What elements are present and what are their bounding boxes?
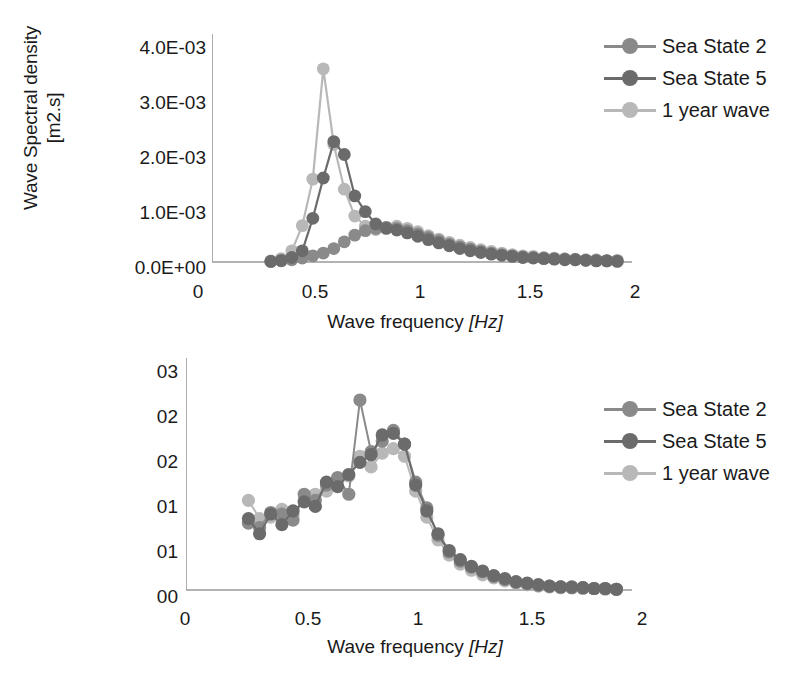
top-chart-x-tick-1: 0.5 [285,282,345,301]
bottom-chart-x-tick-4: 2 [622,609,662,628]
bottom-chart-x-axis-title: Wave frequency [Hz] [205,637,625,657]
data-point [443,544,456,557]
legend-dot-icon [622,401,638,417]
data-point [353,393,366,406]
data-point [242,512,255,525]
data-point [521,577,534,590]
bottom-chart-x-tick-1: 0.5 [278,609,338,628]
data-point [286,504,299,517]
top-chart-x-axis-title: Wave frequency [Hz] [205,312,625,332]
legend-marker-icon [604,37,656,55]
bottom-chart-y-tick-4: 02 [58,407,178,426]
bottom-chart-plot-area [186,358,632,598]
top-chart-x-tick-0: 0 [178,282,218,301]
legend-marker-icon [604,69,656,87]
data-point [353,456,366,469]
transfer-function-heave-chart: Transfer function heave [-] 03 02 02 01 … [0,345,805,691]
legend-label: 1 year wave [662,100,770,120]
chart-page: Wave Spectral density [m2.s] 4.0E-03 3.0… [0,0,805,691]
legend-label: Sea State 5 [662,431,767,451]
data-point [306,212,319,225]
data-point [387,427,400,440]
series-sea-state-2 [242,393,623,595]
data-point [338,235,351,248]
series-sea-state-5 [242,427,623,596]
data-point [610,583,623,596]
top-chart-y-tick-3: 3.0E-03 [78,93,206,112]
data-point [409,479,422,492]
legend-label: Sea State 2 [662,36,767,56]
data-point [509,575,522,588]
data-point [342,468,355,481]
data-point [327,135,340,148]
bottom-chart-legend: Sea State 2Sea State 51 year wave [604,393,770,489]
bottom-chart-x-axis-title-text: Wave frequency [327,636,469,657]
legend-dot-icon [622,70,638,86]
legend-dot-icon [622,102,638,118]
bottom-chart-x-tick-2: 1 [398,609,438,628]
legend-marker-icon [604,432,656,450]
data-point [376,428,389,441]
data-point [317,172,330,185]
top-chart-y-tick-1: 1.0E-03 [78,203,206,222]
top-chart-y-axis-title: Wave Spectral density [m2.s] [19,18,65,218]
data-point [431,527,444,540]
bottom-chart-y-tick-5: 03 [58,362,178,381]
legend-label: 1 year wave [662,463,770,483]
legend-item-3[interactable]: 1 year wave [604,457,770,489]
data-point [342,488,355,501]
data-point [296,244,309,257]
bottom-chart-y-tick-0: 00 [58,587,178,606]
legend-marker-icon [604,400,656,418]
legend-item-3[interactable]: 1 year wave [604,94,770,126]
top-chart-legend: Sea State 2Sea State 51 year wave [604,30,770,126]
data-point [453,242,466,255]
top-chart-x-tick-4: 2 [615,282,655,301]
data-point [498,572,511,585]
data-point [532,578,545,591]
legend-item-1[interactable]: Sea State 2 [604,30,770,62]
bottom-chart-x-tick-3: 1.5 [502,609,562,628]
data-point [611,255,624,268]
legend-item-2[interactable]: Sea State 5 [604,62,770,94]
legend-dot-icon [622,433,638,449]
data-point [309,500,322,513]
data-point [338,148,351,161]
bottom-chart-y-tick-2: 01 [58,497,178,516]
data-point [359,205,372,218]
legend-label: Sea State 2 [662,399,767,419]
bottom-chart-svg [186,358,632,598]
data-point [285,251,298,264]
top-chart-y-tick-4: 4.0E-03 [78,38,206,57]
bottom-chart-x-axis-unit: [Hz] [469,636,503,657]
data-point [364,448,377,461]
series-1-year-wave [264,62,623,267]
series-line [271,69,618,261]
bottom-chart-y-tick-1: 01 [58,542,178,561]
top-chart-x-axis-unit: [Hz] [469,311,503,332]
data-point [348,190,361,203]
legend-dot-icon [622,38,638,54]
legend-dot-icon [622,465,638,481]
legend-marker-icon [604,101,656,119]
data-point [338,183,351,196]
data-point [253,527,266,540]
top-chart-plot-area [212,34,632,270]
wave-spectral-density-chart: Wave Spectral density [m2.s] 4.0E-03 3.0… [0,0,805,345]
data-point [327,242,340,255]
top-chart-svg [212,34,632,270]
top-chart-y-tick-0: 0.0E+00 [78,258,206,277]
data-point [275,518,288,531]
data-point [242,494,255,507]
data-point [454,553,467,566]
legend-item-1[interactable]: Sea State 2 [604,393,770,425]
data-point [264,507,277,520]
data-point [359,224,372,237]
data-point [317,62,330,75]
data-point [420,504,433,517]
data-point [487,569,500,582]
top-chart-x-tick-3: 1.5 [500,282,560,301]
series-sea-state-5 [264,135,623,268]
data-point [296,219,309,232]
legend-item-2[interactable]: Sea State 5 [604,425,770,457]
